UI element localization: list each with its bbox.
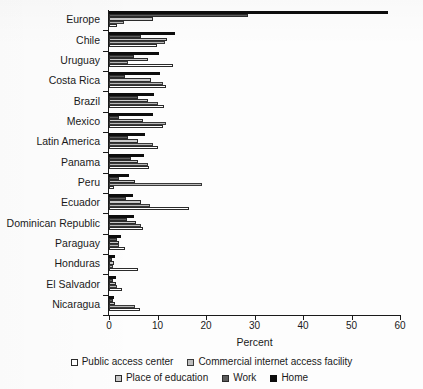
- legend-item-home[interactable]: Home: [270, 372, 308, 384]
- legend-swatch-public-icon: [71, 359, 78, 366]
- category-label-panama: Panama: [0, 157, 100, 168]
- category-label-latin-america: Latin America: [0, 136, 100, 147]
- x-tick-label: 50: [337, 320, 367, 332]
- legend-label: Work: [233, 372, 256, 384]
- bar-public-costa-rica: [109, 85, 166, 88]
- bar-public-chile: [109, 44, 157, 47]
- bar-public-brazil: [109, 105, 164, 108]
- x-tick-label: 10: [143, 320, 173, 332]
- category-label-dominican-republic: Dominican Republic: [0, 218, 100, 229]
- legend-swatch-work-icon: [222, 375, 229, 382]
- legend-row-secondary: Place of educationWorkHome: [0, 370, 423, 386]
- legend-swatch-commercial-icon: [187, 359, 194, 366]
- legend-item-work[interactable]: Work: [222, 372, 256, 384]
- x-tick-label: 20: [191, 320, 221, 332]
- category-label-paraguay: Paraguay: [0, 238, 100, 249]
- bar-public-peru: [109, 186, 114, 189]
- bar-commercial-peru: [109, 183, 202, 186]
- x-axis-title: Percent: [108, 336, 401, 348]
- category-label-peru: Peru: [0, 177, 100, 188]
- bar-public-uruguay: [109, 64, 173, 67]
- bar-public-panama: [109, 166, 149, 169]
- y-axis-line: [108, 10, 109, 316]
- category-label-costa-rica: Costa Rica: [0, 75, 100, 86]
- legend-swatch-education-icon: [115, 375, 122, 382]
- category-label-nicaragua: Nicaragua: [0, 299, 100, 310]
- category-label-ecuador: Ecuador: [0, 197, 100, 208]
- x-tick-label: 40: [288, 320, 318, 332]
- category-label-uruguay: Uruguay: [0, 55, 100, 66]
- legend-label: Public access center: [82, 356, 174, 368]
- chart-legend: Public access centerCommercial internet …: [0, 354, 423, 386]
- bar-public-latin-america: [109, 146, 158, 149]
- legend-label: Place of education: [126, 372, 208, 384]
- x-tick-label: 0: [94, 320, 124, 332]
- category-label-honduras: Honduras: [0, 258, 100, 269]
- category-label-europe: Europe: [0, 14, 100, 25]
- category-label-chile: Chile: [0, 35, 100, 46]
- bar-public-mexico: [109, 125, 163, 128]
- bar-public-honduras: [109, 268, 138, 271]
- x-tick-label: 30: [240, 320, 270, 332]
- category-label-el-salvador: El Salvador: [0, 279, 100, 290]
- legend-item-commercial[interactable]: Commercial internet access facility: [187, 356, 352, 368]
- category-label-mexico: Mexico: [0, 116, 100, 127]
- bar-public-dominican-republic: [109, 227, 143, 230]
- x-tick-label: 60: [385, 320, 415, 332]
- chart-container: EuropeChileUruguayCosta RicaBrazilMexico…: [0, 0, 423, 389]
- legend-row-primary: Public access centerCommercial internet …: [0, 354, 423, 370]
- bar-public-europe: [109, 24, 117, 27]
- category-label-brazil: Brazil: [0, 96, 100, 107]
- bar-public-nicaragua: [109, 308, 140, 311]
- legend-item-education[interactable]: Place of education: [115, 372, 208, 384]
- legend-label: Commercial internet access facility: [198, 356, 352, 368]
- legend-label: Home: [281, 372, 308, 384]
- legend-item-public[interactable]: Public access center: [71, 356, 174, 368]
- legend-swatch-home-icon: [270, 375, 277, 382]
- bar-public-paraguay: [109, 247, 125, 250]
- bar-public-ecuador: [109, 207, 189, 210]
- bar-public-el-salvador: [109, 288, 122, 291]
